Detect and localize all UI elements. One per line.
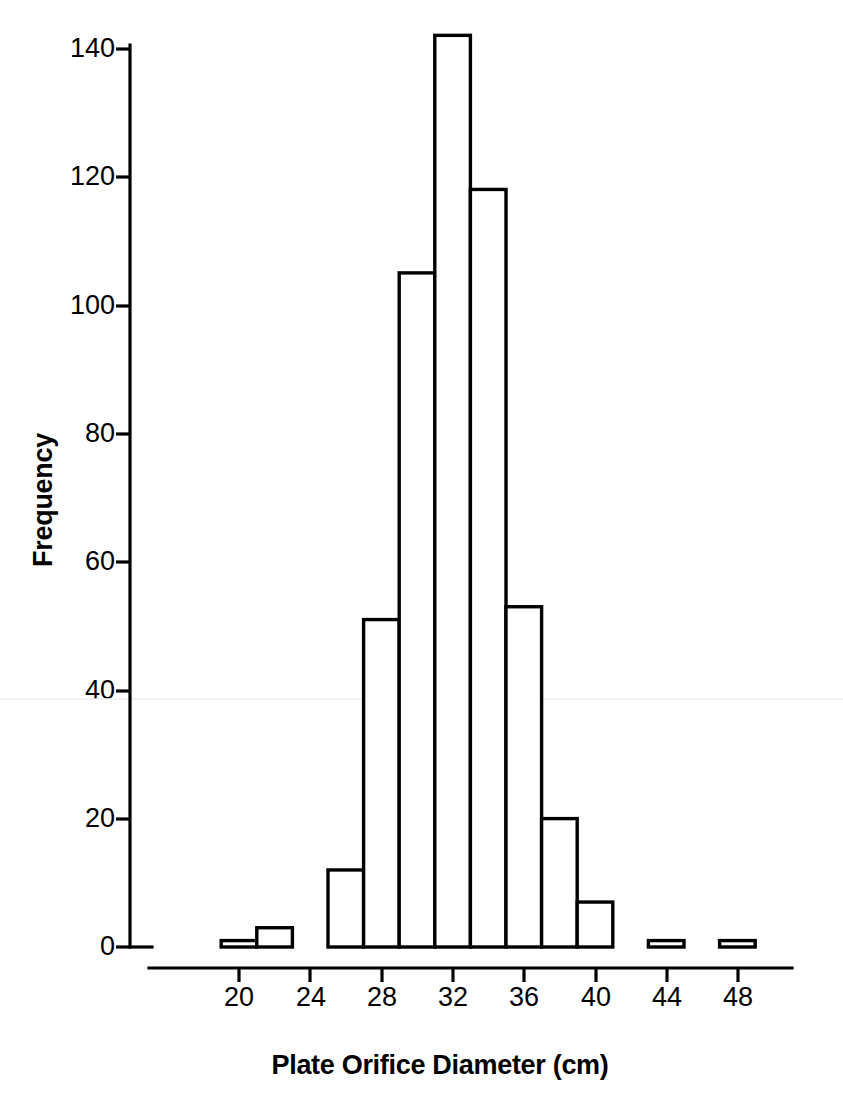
- histogram-bar: [648, 941, 684, 947]
- histogram-bar: [364, 620, 400, 947]
- histogram-bar: [470, 189, 506, 947]
- histogram-bar: [221, 941, 257, 947]
- histogram-bar: [506, 607, 542, 947]
- plot-area: [0, 0, 843, 1117]
- histogram-bar: [328, 870, 364, 947]
- y-axis-ticks: [116, 49, 130, 947]
- histogram-bar: [399, 273, 435, 947]
- histogram-bars: [221, 35, 755, 947]
- histogram-bar: [577, 902, 613, 947]
- histogram-bar: [435, 35, 471, 947]
- histogram-bar: [257, 928, 293, 947]
- x-axis-ticks: [239, 968, 738, 982]
- histogram-bar: [542, 819, 578, 947]
- histogram-bar: [720, 941, 756, 947]
- histogram-figure: Frequency Plate Orifice Diameter (cm) 0 …: [0, 0, 843, 1117]
